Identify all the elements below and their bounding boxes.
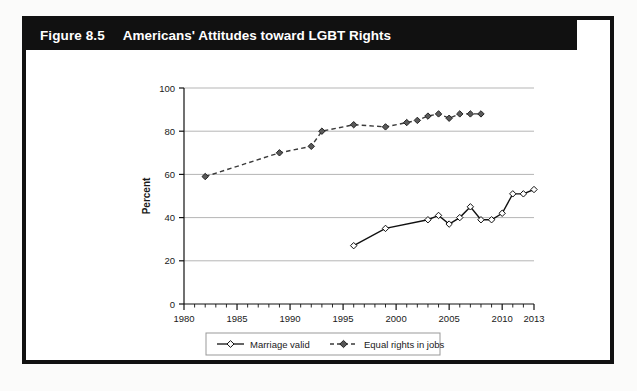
data-point-marker [467,111,473,117]
y-tick-label: 20 [164,255,175,266]
page-background: Figure 8.5 Americans' Attitudes toward L… [0,0,637,391]
legend-label-marriage-valid: Marriage valid [250,339,310,350]
chart-area: 020406080100 198019851990199520002005201… [26,50,610,360]
x-tick-label: 1990 [279,313,300,324]
x-tick-label: 2010 [492,313,513,324]
y-tick-label: 100 [159,83,175,94]
data-point-marker [382,124,388,130]
line-chart: 020406080100 198019851990199520002005201… [26,50,610,360]
legend-label-equal-rights: Equal rights in jobs [364,339,445,350]
x-tick-label: 2005 [439,313,460,324]
series-equal-rights-in-jobs [202,111,484,180]
x-tick-label: 1980 [173,313,194,324]
data-point-marker [531,186,537,192]
x-tick-label: 2013 [523,313,544,324]
x-axis-tick-labels: 19801985199019952000200520102013 [173,313,544,324]
data-point-marker [276,150,282,156]
data-point-marker [499,210,505,216]
figure-title: Americans' Attitudes toward LGBT Rights [123,28,391,43]
x-tick-label: 1985 [226,313,247,324]
data-point-marker [404,119,410,125]
data-point-marker [414,117,420,123]
data-point-marker [510,191,516,197]
y-axis-ticks: 020406080100 [159,83,184,310]
figure-number: Figure 8.5 [40,28,105,43]
data-point-marker [435,111,441,117]
data-point-marker [457,111,463,117]
data-point-marker [425,113,431,119]
figure-container: Figure 8.5 Americans' Attitudes toward L… [22,16,614,364]
data-point-marker [382,225,388,231]
series-line [205,114,481,177]
x-axis-minor-ticks [184,304,534,310]
data-point-marker [350,242,356,248]
x-tick-label: 1995 [333,313,354,324]
x-tick-label: 2000 [386,313,407,324]
y-tick-label: 0 [170,299,175,310]
chart-legend: Marriage valid Equal rights in jobs [26,330,610,360]
data-point-marker [446,115,452,121]
figure-title-bar: Figure 8.5 Americans' Attitudes toward L… [26,20,577,50]
y-axis-title: Percent [141,177,152,214]
data-point-marker [520,191,526,197]
data-point-marker [350,122,356,128]
y-tick-label: 40 [164,212,175,223]
data-point-marker [308,143,314,149]
y-tick-label: 80 [164,126,175,137]
data-point-marker [478,111,484,117]
y-tick-label: 60 [164,169,175,180]
